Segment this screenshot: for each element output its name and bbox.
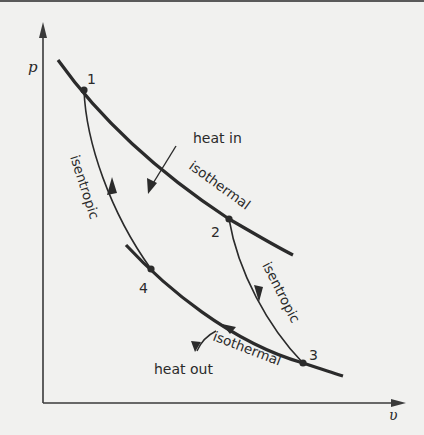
state-point-2: [225, 215, 232, 222]
state-point-3: [299, 359, 306, 366]
point-label-1: 1: [87, 71, 96, 87]
lower-isothermal-label: isothermal: [211, 328, 284, 369]
heat-in-label: heat in: [193, 130, 242, 146]
left-isentrope-curve: [84, 90, 151, 269]
y-axis-arrow-icon: [39, 22, 47, 38]
left-isentrope-arrow-icon: [107, 177, 117, 195]
state-point-1: [80, 86, 87, 93]
x-axis-label: υ: [389, 407, 398, 423]
upper-isothermal-label: isothermal: [186, 157, 253, 212]
axes: p υ: [28, 22, 406, 423]
point-label-3: 3: [309, 347, 318, 363]
heat-out-label: heat out: [154, 361, 213, 377]
right-isentrope-arrow-icon: [254, 285, 263, 302]
point-label-2: 2: [211, 224, 220, 240]
state-point-4: [147, 265, 154, 272]
point-label-4: 4: [139, 280, 148, 296]
diagram-frame: p υ 1 2 3 4 isothermal isothermal isentr…: [0, 0, 424, 435]
pv-diagram: p υ 1 2 3 4 isothermal isothermal isentr…: [0, 2, 424, 435]
x-axis-arrow-icon: [391, 399, 406, 407]
y-axis-label: p: [28, 58, 38, 76]
upper-isotherm-curve: [58, 60, 293, 255]
